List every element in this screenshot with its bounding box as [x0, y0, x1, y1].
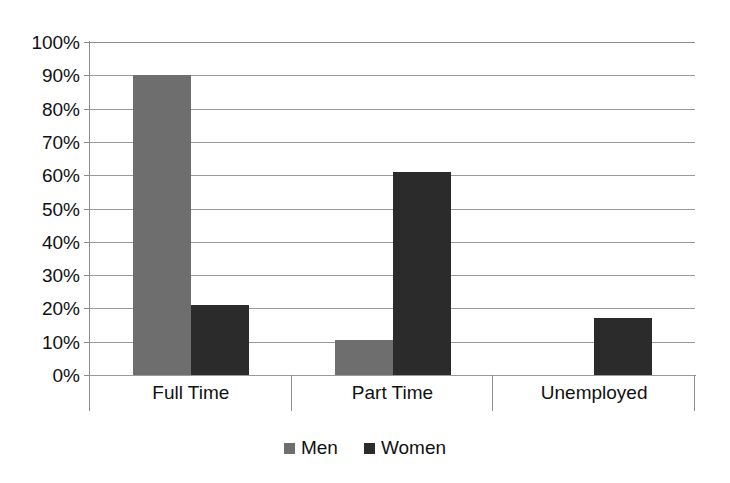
category-axis: Full TimePart TimeUnemployed [89, 375, 696, 411]
legend-label: Men [301, 437, 338, 459]
y-axis-tick-label: 90% [0, 66, 80, 85]
women-swatch [364, 443, 375, 454]
category-divider [492, 375, 493, 411]
y-axis-tick-label: 0% [0, 366, 80, 385]
category-divider [291, 375, 292, 411]
legend-label: Women [381, 437, 446, 459]
category-divider [694, 375, 695, 411]
category-label-full-time: Full Time [90, 375, 292, 411]
men-swatch [284, 443, 295, 454]
y-axis-tick-label: 10% [0, 333, 80, 352]
y-axis-tick-label: 20% [0, 299, 80, 318]
legend-item-men[interactable]: Men [284, 437, 338, 459]
bar-chart: 0%10%20%30%40%50%60%70%80%90%100% Full T… [0, 0, 730, 483]
chart-legend: MenWomen [0, 437, 730, 459]
plot-area [90, 42, 695, 375]
bar-full-time-women [191, 305, 249, 375]
y-axis-tick-label: 40% [0, 233, 80, 252]
y-axis-tick-label: 70% [0, 133, 80, 152]
bar-unemployed-women [594, 318, 652, 375]
bar-part-time-women [393, 172, 451, 375]
y-axis-tick-label: 50% [0, 200, 80, 219]
category-label-part-time: Part Time [292, 375, 494, 411]
category-divider [89, 375, 90, 411]
y-axis-tick-label: 80% [0, 100, 80, 119]
y-axis-tick-label: 60% [0, 166, 80, 185]
y-axis-tick-label: 100% [0, 33, 80, 52]
bar-full-time-men [133, 75, 191, 375]
bar-part-time-men [335, 340, 393, 375]
bars [90, 42, 695, 375]
legend-item-women[interactable]: Women [364, 437, 446, 459]
y-axis-tick-label: 30% [0, 266, 80, 285]
category-label-unemployed: Unemployed [493, 375, 695, 411]
